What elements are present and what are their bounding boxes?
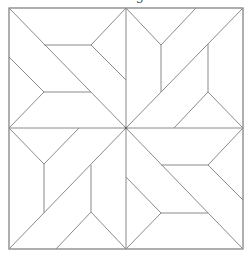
- quilt-block-diagram: [0, 0, 247, 256]
- center-point: [125, 127, 128, 130]
